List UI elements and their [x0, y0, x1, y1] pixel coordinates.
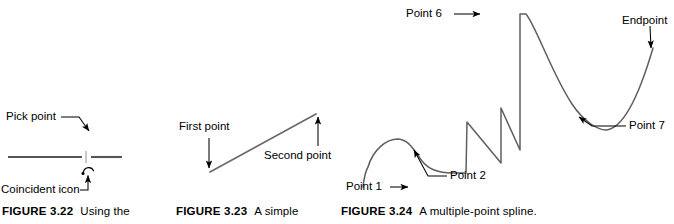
- figure-3-22: Pick point Coincident icon FIGURE 3.22Us…: [0, 0, 176, 224]
- figure-3-24-artwork: [340, 0, 674, 200]
- point-7-leader: [579, 117, 626, 126]
- endpoint-label: Endpoint: [622, 14, 667, 27]
- figure-3-23: First point Second point FIGURE 3.23A si…: [176, 0, 340, 224]
- figure-3-22-caption: FIGURE 3.22Using the: [2, 204, 130, 218]
- figure-3-24: Point 1 Point 2 Point 6 Point 7 Endpoint…: [340, 0, 674, 224]
- figure-3-23-caption-label: FIGURE 3.23: [176, 205, 247, 217]
- figure-3-23-artwork: [176, 0, 340, 200]
- figure-3-23-caption: FIGURE 3.23A simple: [176, 204, 299, 218]
- first-point-label: First point: [179, 120, 230, 133]
- coincident-dot-icon: [81, 172, 84, 175]
- figure-3-24-caption-text: A multiple-point spline.: [419, 205, 536, 217]
- coincident-arc-icon: [84, 168, 94, 172]
- point-1-label: Point 1: [346, 180, 382, 193]
- figure-3-22-artwork: [0, 0, 176, 200]
- pick-point-label: Pick point: [6, 110, 56, 123]
- point-2-label: Point 2: [450, 169, 486, 182]
- figure-3-24-caption-label: FIGURE 3.24: [341, 205, 412, 217]
- point-7-label: Point 7: [629, 119, 665, 132]
- figure-3-22-caption-text: Using the: [80, 205, 129, 217]
- figure-3-22-caption-label: FIGURE 3.22: [2, 205, 73, 217]
- figure-3-23-caption-text: A simple: [254, 205, 298, 217]
- endpoint-leader: [650, 26, 651, 48]
- pick-point-leader: [61, 117, 89, 131]
- spline-curve: [363, 14, 653, 187]
- point-6-label: Point 6: [406, 7, 442, 20]
- coincident-icon-leader: [80, 176, 88, 191]
- second-point-label: Second point: [264, 149, 331, 162]
- figure-3-24-caption: FIGURE 3.24A multiple-point spline.: [341, 204, 537, 218]
- coincident-icon-label: Coincident icon: [1, 183, 80, 196]
